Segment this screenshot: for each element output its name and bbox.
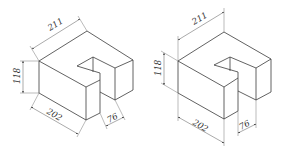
dimension-label-118: 118	[153, 59, 163, 76]
right-isometric-figure: 211 118 202 76	[153, 8, 271, 146]
left-isometric-figure: 211 118 202 76	[12, 16, 133, 137]
dimension-label-76: 76	[237, 118, 252, 132]
dimension-label-211: 211	[189, 10, 209, 27]
right-dimension-202: 202	[178, 93, 224, 146]
left-dimension-211: 211	[30, 16, 87, 61]
right-dimension-76: 76	[237, 100, 256, 136]
right-object-edges	[178, 32, 271, 119]
dimension-label-202: 202	[190, 117, 210, 134]
left-dimension-118: 118	[12, 61, 39, 93]
right-dimension-211: 211	[178, 8, 224, 61]
right-dimension-118: 118	[153, 51, 178, 93]
dimension-label-118: 118	[12, 67, 22, 84]
left-object-edges	[39, 31, 133, 120]
left-dimension-76: 76	[100, 100, 125, 129]
dimension-label-76: 76	[105, 111, 120, 125]
drawing-canvas: 211 118 202 76	[0, 0, 282, 158]
